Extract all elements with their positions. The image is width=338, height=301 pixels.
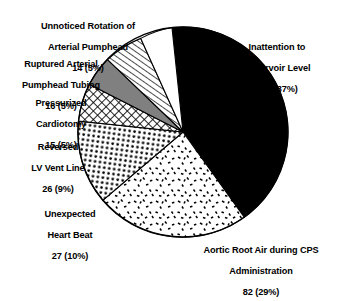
pie-label-aortic-root-air: Aortic Root Air during CPS Administratio… <box>186 234 336 301</box>
pie-label-unexpected-heart-beat-line2: Heart Beat <box>14 230 126 241</box>
pie-label-unexpected-heart-beat-line1: Unexpected <box>14 209 126 220</box>
pie-label-unnoticed-rotation-line1: Unnoticed Rotation of <box>14 21 162 32</box>
pie-label-inattention-reservoir-value: 104 (37%) <box>220 84 334 95</box>
pie-label-pressurized-cardiotomy-line2: Cardiotomy <box>2 119 120 130</box>
pie-label-reversed-lv-vent-value: 26 (9%) <box>2 184 114 195</box>
pie-label-aortic-root-air-line2: Administration <box>186 266 336 277</box>
pie-label-pressurized-cardiotomy-line1: Pressurized <box>2 98 120 109</box>
pie-label-aortic-root-air-value: 82 (29%) <box>186 287 336 298</box>
pie-label-reversed-lv-vent-line1: Reversed <box>2 142 114 153</box>
pie-label-inattention-reservoir-line2: Reservoir Level <box>220 63 334 74</box>
pie-label-reversed-lv-vent-line2: LV Vent Line <box>2 163 114 174</box>
pie-label-unexpected-heart-beat-value: 27 (10%) <box>14 251 126 262</box>
pie-label-unexpected-heart-beat: Unexpected Heart Beat 27 (10%) <box>14 198 126 272</box>
pie-label-aortic-root-air-line1: Aortic Root Air during CPS <box>186 245 336 256</box>
pie-label-ruptured-tubing-line1: Ruptured Arterial <box>2 59 120 70</box>
pie-label-reversed-lv-vent-line: Reversed LV Vent Line 26 (9%) <box>2 131 114 205</box>
pie-label-inattention-reservoir: Inattention to Reservoir Level 104 (37%) <box>220 31 334 105</box>
pie-label-inattention-reservoir-line1: Inattention to <box>220 42 334 53</box>
